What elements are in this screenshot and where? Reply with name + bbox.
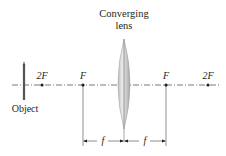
point-2f-right xyxy=(206,83,209,86)
dimension-label-right: f xyxy=(144,135,148,146)
lens-diagram: Converging lens Object 2F F F 2F f f xyxy=(0,0,226,156)
lens-title-line1: Converging xyxy=(99,8,149,19)
point-2f-left xyxy=(40,83,43,86)
object-label: Object xyxy=(12,103,39,114)
dimension-label-left: f xyxy=(102,135,106,146)
label-f-right: F xyxy=(162,70,170,81)
label-2f-left: 2F xyxy=(36,70,48,81)
object-arrow xyxy=(23,61,26,100)
label-f-left: F xyxy=(79,70,87,81)
converging-lens xyxy=(118,39,130,142)
label-2f-right: 2F xyxy=(202,70,214,81)
lens-title-line2: lens xyxy=(116,20,133,31)
